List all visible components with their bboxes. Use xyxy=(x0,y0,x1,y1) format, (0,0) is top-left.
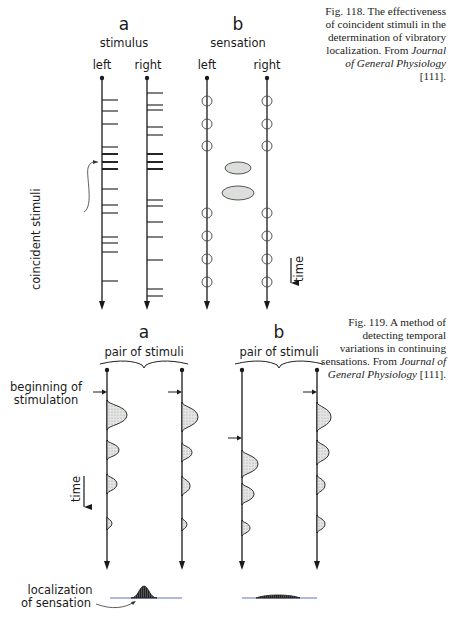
fig118-panel-b: b sensation left right time xyxy=(198,14,306,310)
time-indicator: time xyxy=(69,476,84,507)
sensation-hump xyxy=(107,517,112,530)
arrowhead-icon xyxy=(131,601,136,605)
localization-distribution-a xyxy=(110,586,182,598)
arrow-down-icon xyxy=(239,561,245,570)
sensation-hump xyxy=(107,440,119,460)
localization-label-2: of sensation xyxy=(21,596,91,610)
left-label: left xyxy=(198,58,217,72)
panel-title: stimulus xyxy=(100,36,149,50)
arrow-down-icon xyxy=(99,301,105,310)
localization-label-1: localization xyxy=(27,583,92,597)
fig119-panel-a: a pair of stimuli beginning of stimulati… xyxy=(10,322,198,610)
time-label: time xyxy=(69,476,83,502)
brace-icon xyxy=(100,361,188,368)
coincident-annotation: coincident stimuli xyxy=(29,160,98,290)
stimulus-timelines xyxy=(99,76,163,310)
left-label: left xyxy=(93,58,112,72)
coincident-stimuli-label: coincident stimuli xyxy=(29,188,43,290)
fused-sensation-ellipse xyxy=(222,186,254,200)
caption-ref: [111]. xyxy=(420,70,446,82)
pair-timelines-b xyxy=(228,368,331,570)
start-dot-icon xyxy=(315,368,319,372)
start-dot-icon xyxy=(100,76,104,80)
start-dot-icon xyxy=(105,368,109,372)
sensation-hump xyxy=(317,475,325,495)
arrow-down-icon xyxy=(104,561,110,570)
beginning-label-2: stimulation xyxy=(14,393,78,407)
brace-icon xyxy=(235,361,323,368)
panel-letter: b xyxy=(233,14,244,34)
fig118-panel-a: a stimulus left right coincident stimuli xyxy=(29,14,163,310)
sensation-hump xyxy=(242,520,250,536)
localization-peak xyxy=(256,595,300,598)
localization-distribution-b xyxy=(242,595,317,598)
localization-peak xyxy=(131,586,157,598)
right-label: right xyxy=(134,58,162,72)
sensation-hump xyxy=(182,402,198,432)
arrow-right-icon xyxy=(177,390,182,395)
curved-arrow-icon xyxy=(96,602,134,608)
sensation-hump xyxy=(242,483,254,505)
sensation-hump xyxy=(317,515,325,533)
arrow-down-icon xyxy=(264,301,270,310)
time-label: time xyxy=(292,256,306,282)
sensation-hump xyxy=(182,476,190,496)
start-dot-icon xyxy=(180,368,184,372)
sensation-hump xyxy=(317,402,331,432)
caption-ref: [111]. xyxy=(417,368,446,380)
sensation-hump xyxy=(317,440,329,465)
sensation-timelines xyxy=(202,76,272,310)
panel-letter: b xyxy=(274,322,285,342)
panel-letter: a xyxy=(139,322,149,342)
panel-title: pair of stimuli xyxy=(104,345,183,359)
start-dot-icon xyxy=(145,76,149,80)
panel-letter: a xyxy=(119,14,129,34)
beginning-label-1: beginning of xyxy=(10,380,83,394)
fig119-panel-b: b pair of stimuli xyxy=(228,322,331,598)
arrow-down-icon xyxy=(144,301,150,310)
fused-sensation-ellipse xyxy=(225,162,251,174)
arrow-down-icon xyxy=(179,561,185,570)
curved-arrow-icon xyxy=(84,162,98,212)
arrow-down-icon xyxy=(204,301,210,310)
start-dot-icon xyxy=(205,76,209,80)
arrow-down-icon xyxy=(314,561,320,570)
sensation-hump xyxy=(182,443,192,462)
start-dot-icon xyxy=(265,76,269,80)
panel-title: sensation xyxy=(210,36,265,50)
start-dot-icon xyxy=(240,368,244,372)
fig118-caption: Fig. 118. The effectiveness of coinciden… xyxy=(318,5,446,83)
figure-canvas: a stimulus left right coincident stimuli… xyxy=(0,0,455,626)
pair-timelines-a xyxy=(93,368,198,570)
sensation-hump xyxy=(107,400,127,430)
arrow-right-icon xyxy=(102,390,107,395)
arrow-right-icon xyxy=(312,390,317,395)
sensation-hump xyxy=(107,474,117,494)
arrow-right-icon xyxy=(237,436,242,441)
right-label: right xyxy=(253,58,281,72)
sensation-hump xyxy=(242,450,258,478)
fig119-caption: Fig. 119. A method of detecting temporal… xyxy=(320,316,446,381)
sensation-hump xyxy=(182,518,187,531)
time-indicator: time xyxy=(291,256,306,283)
arrowhead-icon xyxy=(93,160,98,164)
panel-title: pair of stimuli xyxy=(239,345,318,359)
